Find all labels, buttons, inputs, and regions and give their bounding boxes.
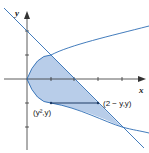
left-point-label: (y²,y)	[33, 108, 52, 117]
y-axis-arrow-icon	[24, 11, 30, 19]
x-axis-arrow-icon	[138, 76, 146, 82]
y-axis-label: y	[14, 8, 20, 18]
right-point-dot	[97, 102, 99, 104]
right-point-label: (2 − y,y)	[103, 99, 132, 108]
region-diagram: x y (2 − y,y) (y²,y)	[0, 0, 149, 153]
x-axis-label: x	[138, 85, 144, 95]
left-point-dot	[50, 102, 52, 104]
